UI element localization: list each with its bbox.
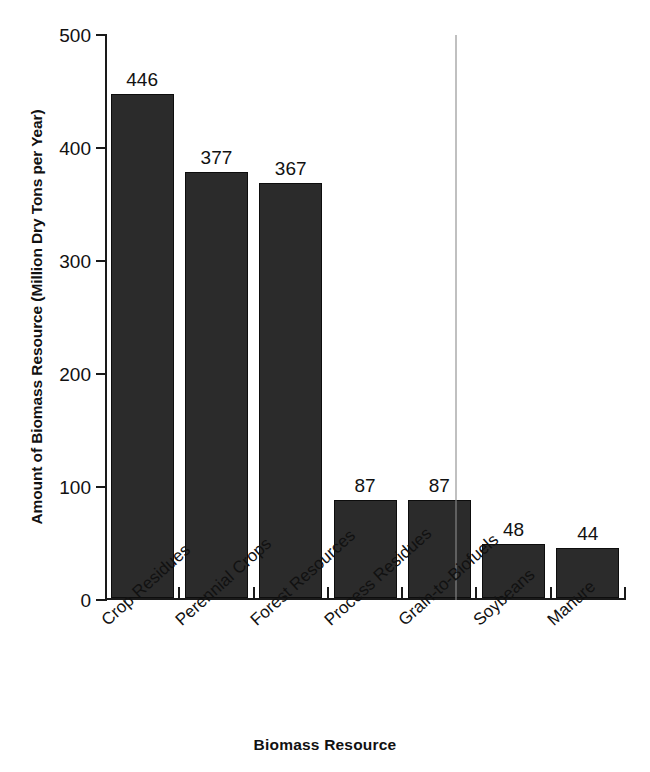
- y-axis-tick: [96, 260, 107, 262]
- bar: [259, 183, 322, 598]
- bar-chart-figure: Amount of Biomass Resource (Million Dry …: [0, 0, 650, 772]
- bar-value-label: 44: [538, 524, 637, 543]
- y-axis-line: [105, 35, 107, 600]
- x-axis-tick: [550, 587, 552, 600]
- bar-value-label: 367: [241, 159, 340, 178]
- y-axis-tick-label: 0: [31, 591, 91, 610]
- y-axis-tick-label: 100: [31, 478, 91, 497]
- bar-value-label: 87: [390, 476, 489, 495]
- y-axis-tick-label: 300: [31, 252, 91, 271]
- y-axis-tick: [96, 34, 107, 36]
- x-axis-tick: [327, 587, 329, 600]
- y-axis-tick: [96, 599, 107, 601]
- plot-area: 44637736787874844: [105, 35, 625, 600]
- scan-artifact-line: [455, 35, 457, 600]
- y-axis-tick: [96, 373, 107, 375]
- x-axis-tick: [253, 587, 255, 600]
- y-axis-tick: [96, 147, 107, 149]
- y-axis-tick-label: 200: [31, 365, 91, 384]
- x-axis-tick: [475, 587, 477, 600]
- bar: [185, 172, 248, 598]
- bar-value-label: 446: [93, 70, 192, 89]
- y-axis-tick: [96, 486, 107, 488]
- x-axis-tick: [624, 587, 626, 600]
- y-axis-tick-label: 400: [31, 139, 91, 158]
- x-axis-tick: [401, 587, 403, 600]
- y-axis-title: Amount of Biomass Resource (Million Dry …: [28, 27, 46, 607]
- x-axis-title: Biomass Resource: [0, 736, 650, 754]
- bar: [111, 94, 174, 598]
- x-axis-tick: [178, 587, 180, 600]
- y-axis-tick-label: 500: [31, 26, 91, 45]
